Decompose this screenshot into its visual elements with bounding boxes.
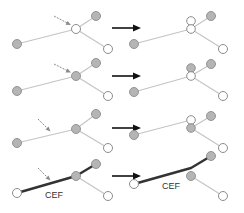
row-2-before	[13, 59, 113, 101]
gray-node	[207, 12, 216, 21]
gray-node-split	[187, 124, 196, 133]
open-node	[219, 144, 228, 153]
gray-node-target	[72, 125, 81, 134]
cef-label: CEF	[162, 181, 181, 191]
gray-node	[207, 152, 216, 161]
row-1-after	[130, 12, 228, 54]
edge	[76, 76, 108, 96]
cef-path	[17, 164, 96, 193]
gray-node-target	[72, 72, 81, 81]
gray-node	[92, 12, 101, 21]
pointer-arrow-icon	[38, 168, 51, 181]
open-node	[104, 45, 113, 54]
pointer-arrow-icon	[38, 119, 51, 132]
edge	[191, 128, 223, 148]
edge	[191, 29, 223, 49]
big-arrow-icon	[112, 73, 141, 80]
edge	[191, 76, 223, 96]
pointer-arrow-icon	[54, 64, 71, 73]
gray-node	[130, 40, 139, 49]
gray-node	[13, 40, 22, 49]
open-node-split	[187, 25, 196, 34]
edge	[17, 129, 76, 143]
open-node	[219, 92, 228, 101]
row-4-before: CEF	[13, 160, 113, 201]
open-node-split	[187, 17, 196, 26]
edge	[76, 129, 108, 148]
gray-node	[92, 160, 101, 169]
edge	[17, 76, 76, 91]
edge	[17, 29, 76, 44]
big-arrow-icon	[112, 173, 141, 180]
big-arrow-icon	[112, 125, 141, 132]
open-node	[219, 45, 228, 54]
big-arrow-icon	[112, 25, 141, 32]
cef-path	[134, 156, 211, 184]
node-splitting-diagram: CEF CEF	[0, 0, 244, 213]
open-node-split	[187, 72, 196, 81]
gray-node	[92, 59, 101, 68]
cef-label: CEF	[45, 190, 64, 200]
open-node	[130, 180, 139, 189]
open-node	[13, 189, 22, 198]
edge	[134, 120, 191, 135]
gray-node	[13, 87, 22, 96]
open-node	[219, 192, 228, 201]
row-3-after	[130, 112, 228, 153]
open-node	[104, 192, 113, 201]
gray-node	[207, 112, 216, 121]
row-4-after: CEF	[130, 152, 228, 201]
edge	[76, 29, 108, 49]
gray-node-target	[72, 172, 81, 181]
gray-node	[130, 131, 139, 140]
open-node	[104, 144, 113, 153]
gray-node-split	[187, 64, 196, 73]
open-node-split	[187, 116, 196, 125]
row-3-before	[13, 110, 113, 153]
gray-node	[130, 88, 139, 97]
row-2-after	[130, 60, 228, 101]
gray-node	[92, 110, 101, 119]
edge	[134, 76, 191, 92]
row-1-before	[13, 12, 113, 54]
gray-node-split	[187, 172, 196, 181]
open-node-target	[72, 25, 81, 34]
open-node	[104, 92, 113, 101]
edge	[191, 176, 223, 196]
pointer-arrow-icon	[54, 16, 71, 25]
gray-node	[13, 139, 22, 148]
edge	[76, 176, 108, 196]
edge	[134, 29, 191, 44]
gray-node	[207, 60, 216, 69]
